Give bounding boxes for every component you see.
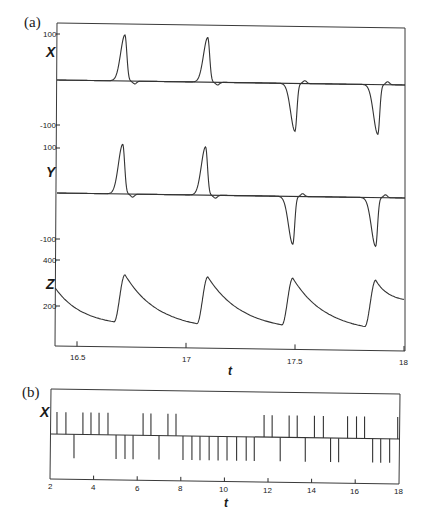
panel-a-x-axis-label: t — [228, 364, 232, 378]
data-curves — [51, 35, 405, 463]
panel-a-frame — [55, 23, 405, 351]
b-tick-4: 4 — [91, 483, 95, 492]
panel-b-label: (b) — [22, 384, 40, 401]
b-x-variable-label: X — [40, 404, 49, 420]
z-trace — [55, 275, 404, 327]
x-variable-label: X — [46, 44, 55, 60]
b-tick-8: 8 — [178, 484, 182, 493]
b-tick-12: 12 — [263, 486, 272, 495]
t-tick-18: 18 — [399, 358, 408, 367]
t-tick-16-5: 16.5 — [70, 353, 86, 362]
panel-a-label: (a) — [24, 14, 41, 31]
x-trace-baseline — [57, 80, 405, 85]
b-tick-18: 18 — [394, 487, 403, 496]
t-tick-17-5: 17.5 — [287, 357, 303, 366]
x-tick-neg100: -100 — [40, 121, 56, 130]
t-tick-17: 17 — [182, 355, 191, 364]
b-tick-10: 10 — [219, 485, 228, 494]
y-trace-baseline — [57, 193, 405, 198]
b-tick-14: 14 — [307, 486, 316, 495]
b-tick-16: 16 — [350, 487, 359, 496]
b-tick-6: 6 — [135, 484, 139, 493]
figure-canvas — [0, 0, 423, 521]
y-variable-label: Y — [46, 164, 55, 180]
z-variable-label: Z — [46, 276, 55, 292]
panel-b-x-axis-label: t — [224, 496, 228, 510]
b-tick-2: 2 — [48, 482, 52, 491]
y-tick-100: 100 — [43, 143, 56, 152]
y-tick-neg100: -100 — [40, 235, 56, 244]
z-tick-400: 400 — [43, 256, 56, 265]
z-tick-200: 200 — [43, 302, 56, 311]
x-tick-100: 100 — [43, 30, 56, 39]
